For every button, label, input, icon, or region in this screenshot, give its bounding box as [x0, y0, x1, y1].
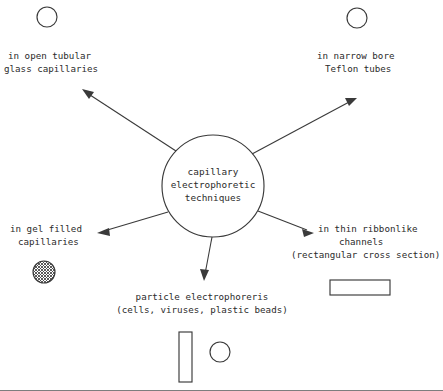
label-particle-electrophoresis-line-2: (cells, viruses, plastic beads)	[116, 304, 287, 315]
open-circle-cross-section-icon-bottom	[210, 342, 230, 362]
label-thin-ribbonlike-channels-line-3: (rectangular cross section)	[291, 249, 440, 260]
arrow-to-gel-filled-capillaries	[97, 212, 168, 236]
label-narrow-bore-teflon-tubes-line-2: Teflon tubes	[325, 63, 391, 74]
label-narrow-bore-teflon-tubes-line-1: in narrow bore	[317, 50, 394, 61]
center-node-line-1: capillary	[188, 166, 239, 177]
label-particle-electrophoresis-line-1: particle electrophoreris	[136, 291, 269, 302]
diagram-page: capillary electrophoretic techniques	[0, 0, 443, 391]
open-circle-cross-section-icon-top-left	[37, 7, 57, 27]
arrow-to-thin-ribbonlike-channels	[258, 211, 314, 237]
arrow-to-open-tubular-glass-capillaries	[82, 89, 176, 151]
center-node-line-2: electrophoretic	[171, 179, 256, 190]
hatched-circle-cross-section-icon	[33, 261, 55, 283]
center-node-line-3: techniques	[185, 192, 241, 203]
arrow-to-narrow-bore-teflon-tubes	[252, 98, 357, 154]
label-thin-ribbonlike-channels-line-1: in thin ribbonlike	[318, 223, 418, 234]
tall-rectangle-cross-section-icon	[179, 332, 192, 382]
radial-diagram: capillary electrophoretic techniques	[0, 0, 443, 391]
arrow-to-particle-electrophoresis	[200, 237, 212, 281]
open-circle-cross-section-icon-top-right	[347, 8, 367, 28]
label-open-tubular-glass-capillaries-line-2: glass capillaries	[4, 63, 98, 74]
label-gel-filled-capillaries-line-2: capillaries	[18, 236, 79, 247]
label-thin-ribbonlike-channels-line-2: channels	[339, 236, 383, 247]
label-gel-filled-capillaries-line-1: in gel filled	[10, 223, 82, 234]
wide-rectangle-cross-section-icon	[330, 280, 390, 295]
label-open-tubular-glass-capillaries-line-1: in open tubular	[8, 50, 91, 61]
